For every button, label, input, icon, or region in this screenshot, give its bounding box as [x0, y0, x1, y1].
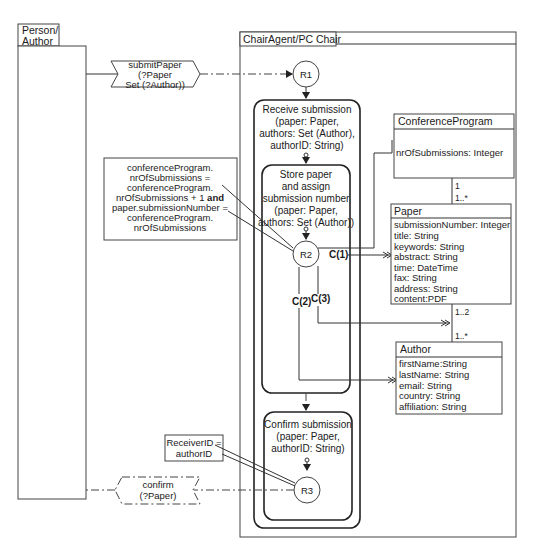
multiplicity-cp-paper: 1..* [455, 193, 468, 203]
svg-text:R1: R1 [300, 69, 312, 80]
svg-text:lastName: String: lastName: String [399, 369, 469, 380]
person-lane-title-2: Author [22, 35, 53, 47]
svg-text:content:PDF: content:PDF [394, 293, 447, 304]
svg-text:affiliation: String: affiliation: String [399, 401, 466, 412]
link-c2-label: C(2) [292, 296, 311, 307]
svg-text:Confirm submission: Confirm submission [264, 419, 352, 430]
class-name: Author [400, 343, 431, 355]
submit-message-line3: Set (?Author)) [125, 79, 185, 90]
class-name: ConferenceProgram [398, 115, 493, 127]
svg-text:title: String: title: String [394, 230, 439, 241]
svg-text:nrOfSubmissions: nrOfSubmissions [134, 222, 207, 233]
svg-text:authors: Set (Author)): authors: Set (Author)) [258, 217, 354, 228]
node-r2[interactable]: R2 [293, 241, 319, 267]
svg-text:ReceiverID =: ReceiverID = [166, 437, 222, 448]
svg-text:and assign: and assign [282, 181, 330, 192]
class-author[interactable]: Author firstName:String lastName: String… [396, 342, 502, 414]
svg-text:R2: R2 [300, 249, 312, 260]
confirm-message-line1: confirm [142, 479, 173, 490]
svg-text:country: String: country: String [399, 390, 460, 401]
svg-text:fax: String: fax: String [394, 272, 437, 283]
svg-text:Receive submission: Receive submission [263, 104, 352, 115]
svg-text:(paper: Paper,: (paper: Paper, [275, 116, 338, 127]
class-name: Paper [394, 205, 423, 217]
person-lane-body [18, 46, 86, 499]
svg-text:firstName:String: firstName:String [399, 358, 467, 369]
link-c3-label: C(3) [311, 293, 330, 304]
svg-text:authorID: authorID [176, 448, 213, 459]
svg-text:abstract: String: abstract: String [394, 251, 458, 262]
multiplicity-author-paper: 1..* [455, 331, 468, 341]
multiplicity-cp: 1 [455, 181, 460, 191]
confirm-message-line2: (?Paper) [140, 490, 177, 501]
node-r3[interactable]: R3 [294, 477, 320, 503]
svg-text:authorID: String): authorID: String) [270, 140, 343, 151]
svg-text:authorID: String): authorID: String) [271, 443, 344, 454]
svg-text:(paper: Paper,: (paper: Paper, [276, 431, 339, 442]
svg-text:submission number: submission number [263, 193, 350, 204]
class-conference-program[interactable]: ConferenceProgram nrOfSubmissions: Integ… [394, 114, 514, 178]
receiver-id-note: ReceiverID = authorID [165, 435, 223, 461]
person-author-lane: Person/ Author [18, 24, 86, 499]
constraint-note: conferenceProgram. nrOfSubmissions = con… [104, 158, 237, 240]
node-r1[interactable]: R1 [293, 61, 319, 87]
svg-text:R3: R3 [301, 485, 313, 496]
svg-text:submissionNumber: Integer: submissionNumber: Integer [394, 219, 510, 230]
svg-text:Store paper: Store paper [280, 169, 333, 180]
class-attribute: nrOfSubmissions: Integer [396, 147, 503, 158]
svg-text:authors: Set (Author),: authors: Set (Author), [259, 128, 355, 139]
chair-lane-title: ChairAgent/PC Chair [243, 33, 342, 45]
svg-text:(paper: Paper,: (paper: Paper, [274, 205, 337, 216]
class-paper[interactable]: Paper submissionNumber: Integer title: S… [391, 204, 511, 304]
link-c1-label: C(1) [329, 249, 348, 260]
multiplicity-paper-author: 1..2 [455, 307, 469, 317]
